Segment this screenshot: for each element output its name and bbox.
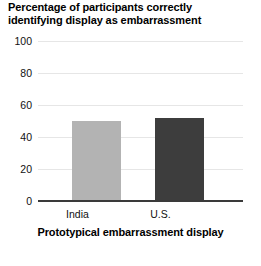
y-axis-tick-0: 0 (26, 196, 32, 207)
chart-title-line-1: Percentage of participants correctly (8, 1, 253, 14)
plot-area: 100 80 60 40 20 0 (38, 41, 243, 201)
gridline-60 (38, 105, 243, 106)
chart-title: Percentage of participants correctly ide… (8, 1, 253, 27)
x-axis-tick-india: India (50, 209, 105, 220)
gridline-20 (38, 169, 243, 170)
y-axis-tick-100: 100 (14, 36, 32, 47)
bar-chart-figure: Percentage of participants correctly ide… (0, 0, 261, 266)
y-axis-tick-40: 40 (20, 132, 32, 143)
x-axis-line (38, 200, 243, 202)
x-axis-tick-us: U.S. (133, 209, 188, 220)
chart-title-line-2: identifying display as embarrassment (8, 14, 253, 27)
bar-india (72, 121, 121, 201)
bar-us (155, 118, 204, 201)
y-axis-tick-80: 80 (20, 68, 32, 79)
gridline-40 (38, 137, 243, 138)
y-axis-tick-20: 20 (20, 164, 32, 175)
gridline-100 (38, 41, 243, 42)
gridline-80 (38, 73, 243, 74)
y-axis-tick-60: 60 (20, 100, 32, 111)
x-axis-title: Prototypical embarrassment display (0, 226, 261, 239)
